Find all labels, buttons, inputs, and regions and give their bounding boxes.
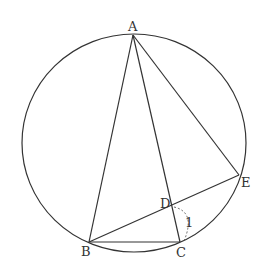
label-e: E bbox=[241, 175, 251, 190]
label-angle-1: 1 bbox=[185, 215, 193, 230]
circumcircle bbox=[22, 34, 246, 252]
geometry-diagram: A B C D E 1 bbox=[0, 0, 264, 269]
segment-ab bbox=[89, 35, 133, 242]
label-d: D bbox=[160, 196, 170, 211]
label-c: C bbox=[176, 245, 186, 260]
label-b: B bbox=[81, 244, 91, 259]
label-a: A bbox=[127, 19, 138, 34]
